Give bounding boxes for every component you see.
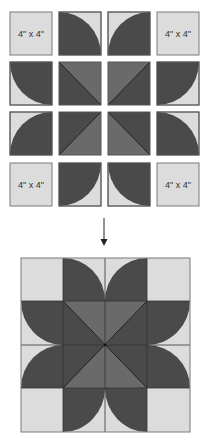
arrow-down-icon bbox=[101, 218, 108, 246]
tile-r1c2-half-square-triangle bbox=[108, 62, 150, 105]
tile-r2c1-half-square-triangle bbox=[59, 112, 101, 155]
tile-r2c0-quarter-circle bbox=[10, 112, 52, 155]
tile-size-label: 4" x 4" bbox=[18, 180, 44, 190]
tile-r0c0-plain: 4" x 4" bbox=[10, 12, 52, 55]
tile-r1c3-quarter-circle bbox=[157, 62, 199, 105]
assembled-quilt-block bbox=[21, 258, 190, 432]
tile-r1c0-quarter-circle bbox=[10, 62, 52, 105]
tile-r1c1-half-square-triangle bbox=[59, 62, 101, 105]
tile-r3c0-plain: 4" x 4" bbox=[10, 163, 52, 206]
tile-r0c1-quarter-circle bbox=[59, 12, 101, 55]
tile-r3c3-plain: 4" x 4" bbox=[157, 163, 199, 206]
unassembled-tiles-grid: 4" x 4" 4" x 4" bbox=[10, 12, 199, 206]
tile-size-label: 4" x 4" bbox=[165, 180, 191, 190]
tile-r0c2-quarter-circle bbox=[108, 12, 150, 55]
tile-r0c3-plain: 4" x 4" bbox=[157, 12, 199, 55]
tile-r3c2-quarter-circle bbox=[108, 163, 150, 206]
tile-size-label: 4" x 4" bbox=[18, 29, 44, 39]
tile-r3c1-quarter-circle bbox=[59, 163, 101, 206]
tile-size-label: 4" x 4" bbox=[165, 29, 191, 39]
quilt-block-diagram: 4" x 4" 4" x 4" bbox=[0, 0, 207, 441]
tile-r2c3-quarter-circle bbox=[157, 112, 199, 155]
tile-r2c2-half-square-triangle bbox=[108, 112, 150, 155]
